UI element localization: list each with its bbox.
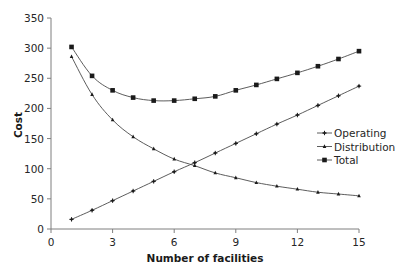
x-tick-label: 6 bbox=[171, 236, 178, 248]
x-tick-label: 0 bbox=[48, 236, 55, 248]
y-tick-label: 350 bbox=[24, 12, 44, 24]
x-tick-label: 3 bbox=[109, 236, 116, 248]
legend-item-distribution: Distribution bbox=[317, 141, 395, 153]
x-tick-label: 12 bbox=[291, 236, 304, 248]
legend-label: Operating bbox=[334, 127, 387, 139]
series-operating bbox=[69, 84, 361, 222]
y-axis-title: Cost bbox=[12, 112, 24, 138]
legend-label: Total bbox=[333, 154, 359, 166]
legend-label: Distribution bbox=[334, 141, 395, 153]
y-tick-label: 0 bbox=[37, 223, 44, 235]
series-total bbox=[69, 45, 361, 103]
chart: 050100150200250300350 03691215 Cost Numb… bbox=[0, 0, 398, 274]
x-tick-label: 9 bbox=[232, 236, 239, 248]
y-axis: 050100150200250300350 bbox=[24, 12, 51, 235]
y-tick-label: 50 bbox=[31, 193, 44, 205]
series-distribution bbox=[70, 54, 361, 197]
y-tick-label: 300 bbox=[24, 42, 44, 54]
y-tick-label: 150 bbox=[24, 133, 44, 145]
x-tick-label: 15 bbox=[352, 236, 365, 248]
line-chart: 050100150200250300350 03691215 Cost Numb… bbox=[0, 0, 398, 274]
x-axis-title: Number of facilities bbox=[147, 252, 264, 264]
legend: OperatingDistributionTotal bbox=[317, 127, 395, 166]
legend-item-operating: Operating bbox=[317, 127, 387, 139]
y-tick-label: 200 bbox=[24, 102, 44, 114]
x-axis: 03691215 bbox=[48, 229, 366, 248]
y-tick-label: 250 bbox=[24, 72, 44, 84]
legend-item-total: Total bbox=[317, 154, 359, 166]
y-tick-label: 100 bbox=[24, 163, 44, 175]
